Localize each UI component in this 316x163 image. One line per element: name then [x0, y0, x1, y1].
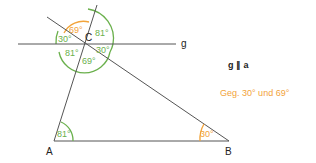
angle-c-upper-right: 81° — [95, 28, 109, 38]
angle-c-left: 30° — [58, 34, 72, 44]
line-label-g: g — [181, 38, 187, 49]
angle-b: 30° — [200, 129, 214, 139]
angle-c-lower-left: 81° — [65, 48, 79, 58]
triangle-diagram: 69° 81° 30° 30° 81° 69° 81° 30° C A B g — [0, 0, 316, 163]
angle-c-right: 30° — [96, 45, 110, 55]
angle-c-bottom: 69° — [82, 56, 96, 66]
given-note: Geg. 30° und 69° — [220, 88, 289, 98]
line-bc — [47, 17, 229, 141]
angle-a: 81° — [57, 129, 71, 139]
point-label-c: C — [85, 32, 92, 43]
parallel-note: g ∥ a — [228, 60, 249, 70]
point-label-a: A — [46, 146, 53, 157]
point-label-b: B — [225, 146, 232, 157]
